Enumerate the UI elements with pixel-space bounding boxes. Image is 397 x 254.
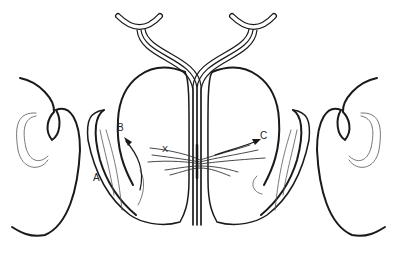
- right-lobe: [212, 68, 279, 185]
- far-left-outer: [12, 78, 80, 236]
- arrow-b-icon: [124, 137, 142, 190]
- left-cup-icon: [118, 16, 160, 27]
- label-a: A: [93, 173, 100, 183]
- right-lobe-lower: [208, 72, 310, 224]
- diagram-canvas: [0, 0, 397, 254]
- left-tube: [137, 29, 201, 225]
- left-inner-curve: [96, 110, 136, 215]
- arrow-c-icon: [215, 139, 261, 155]
- right-cup-icon: [232, 16, 274, 27]
- far-right-outer: [317, 78, 385, 236]
- left-lobe: [118, 68, 185, 185]
- right-tube: [193, 29, 257, 225]
- label-b: B: [117, 123, 124, 133]
- label-x: X: [162, 145, 168, 154]
- label-c: C: [260, 131, 267, 141]
- left-lobe-lower: [88, 72, 190, 224]
- right-inner-curve: [261, 110, 301, 215]
